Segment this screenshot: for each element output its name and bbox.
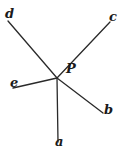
rays-group [8, 21, 110, 142]
ray-label-c: c [109, 9, 117, 24]
ray-label-b: b [104, 102, 113, 117]
rays-diagram: P a b c d e [0, 0, 121, 153]
ray-label-d: d [5, 6, 14, 21]
ray-b [57, 78, 103, 113]
ray-c [57, 22, 110, 78]
ray-label-e: e [10, 75, 18, 90]
ray-d [8, 21, 57, 78]
ray-a [57, 78, 58, 142]
labels-group: P a b c d e [5, 6, 117, 149]
ray-e [13, 78, 57, 88]
ray-label-a: a [55, 134, 63, 149]
center-label-p: P [65, 61, 77, 76]
